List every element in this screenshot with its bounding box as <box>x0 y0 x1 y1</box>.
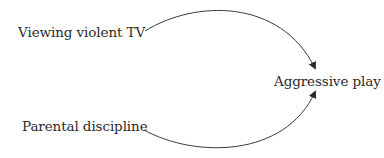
diagram-arrows <box>0 0 384 158</box>
arrow-discipline-to-aggression <box>144 92 315 148</box>
arrow-tv-to-aggression <box>145 10 315 68</box>
